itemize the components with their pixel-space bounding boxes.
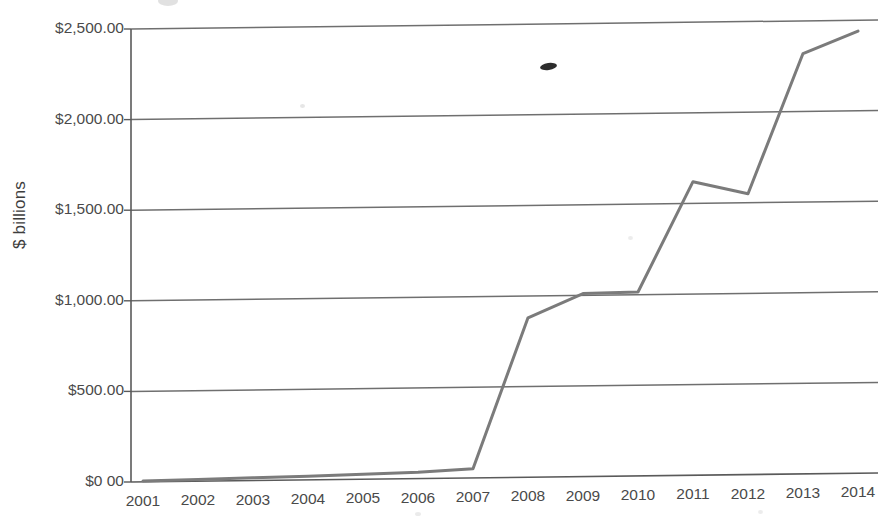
line-chart: $ billions $0 00$500.00$1,000.00$1,500.0… [0, 0, 893, 532]
gridlines [131, 20, 878, 391]
plot-area [0, 0, 893, 532]
gridline [131, 111, 878, 120]
gridline [131, 20, 878, 29]
gridline [131, 201, 878, 210]
axis-lines [124, 29, 878, 482]
gridline [131, 292, 878, 301]
data-series-line [143, 31, 858, 481]
series-line [143, 31, 858, 481]
